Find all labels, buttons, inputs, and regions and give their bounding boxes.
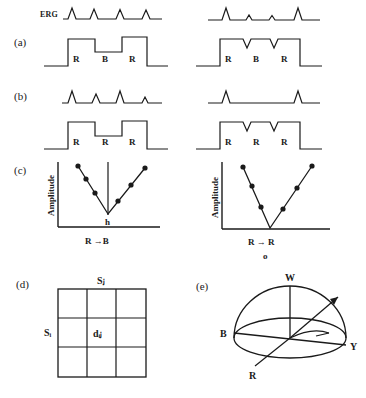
grid-center-label: dᵢⱼ bbox=[93, 328, 102, 339]
axis-label-y: Y bbox=[350, 341, 358, 352]
data-point bbox=[128, 182, 133, 187]
panel-b: (b) R R R R R R bbox=[14, 90, 322, 149]
panel-b-right: R R R bbox=[196, 91, 322, 149]
axis-label-r: R bbox=[249, 370, 257, 381]
data-point bbox=[83, 176, 88, 181]
erg-trace-a-left bbox=[63, 8, 162, 19]
panel-d: (d) Sⱼ Sᵢ dᵢⱼ bbox=[16, 275, 146, 377]
data-point bbox=[280, 206, 285, 211]
grid-top-label: Sⱼ bbox=[97, 275, 105, 286]
panel-e-letter: (e) bbox=[196, 280, 209, 293]
figure-canvas: (a) ERG R B R R B R (b) R bbox=[0, 0, 366, 398]
vector-arrow-head bbox=[330, 297, 338, 305]
stimulus-label-a-left-1: B bbox=[102, 54, 108, 64]
data-point bbox=[240, 164, 245, 169]
data-point bbox=[258, 204, 263, 209]
axis-label-y-c-left: Amplitude bbox=[46, 175, 56, 216]
panel-b-letter: (b) bbox=[14, 90, 27, 103]
erg-trace-b-right bbox=[208, 91, 320, 103]
stimulus-label-b-left-2: R bbox=[129, 137, 136, 147]
data-point bbox=[92, 190, 97, 195]
panel-a-right: R B R bbox=[196, 8, 322, 66]
marker-below-c-right: o bbox=[263, 251, 268, 261]
figure-root: (a) ERG R B R R B R (b) R bbox=[0, 0, 366, 398]
stimulus-label-a-left-0: R bbox=[73, 54, 80, 64]
axis-label-y-c-right: Amplitude bbox=[210, 177, 220, 218]
stimulus-label-a-right-1: B bbox=[253, 54, 259, 64]
axis-r bbox=[255, 338, 290, 366]
erg-trace-b-left bbox=[62, 91, 162, 103]
stimulus-label-b-left-0: R bbox=[73, 137, 80, 147]
axis-label-x-c-right: R → R bbox=[248, 237, 275, 247]
panel-c: (c) Amplitude R →B h Amplitude bbox=[14, 162, 330, 261]
stimulus-label-a-right-0: R bbox=[225, 54, 232, 64]
data-point bbox=[309, 163, 314, 168]
stimulus-label-b-right-2: R bbox=[281, 137, 288, 147]
panel-b-left: R R R bbox=[44, 91, 168, 149]
stimulus-label-b-right-1: R bbox=[253, 137, 260, 147]
stimulus-label-a-right-2: R bbox=[281, 54, 288, 64]
panel-d-letter: (d) bbox=[16, 278, 29, 291]
panel-c-left: Amplitude R →B h bbox=[46, 162, 160, 246]
axis-label-x-c-left: R →B bbox=[85, 236, 109, 246]
grid-left-label: Sᵢ bbox=[44, 327, 52, 338]
data-point bbox=[75, 163, 80, 168]
data-point bbox=[142, 165, 147, 170]
v-curve-c-left bbox=[78, 166, 145, 214]
data-point bbox=[294, 185, 299, 190]
v-curve-c-right bbox=[243, 166, 312, 228]
panel-a-letter: (a) bbox=[14, 36, 27, 49]
panel-c-right: Amplitude R → R o bbox=[210, 162, 330, 261]
azimuth-arc-tail bbox=[316, 333, 329, 336]
vertex-label-c-left: h bbox=[105, 217, 110, 227]
stimulus-label-a-left-2: R bbox=[129, 54, 136, 64]
erg-label-a-left: ERG bbox=[40, 10, 58, 19]
panel-c-letter: (c) bbox=[14, 164, 27, 177]
erg-trace-a-right bbox=[208, 8, 320, 20]
panel-a-left: ERG R B R bbox=[40, 8, 168, 66]
panel-e: (e) W B Y R bbox=[196, 272, 358, 381]
stimulus-label-b-left-1: R bbox=[102, 137, 109, 147]
panel-a: (a) ERG R B R R B R bbox=[14, 8, 322, 66]
axis-label-b: B bbox=[220, 328, 227, 339]
axis-label-w: W bbox=[285, 272, 295, 283]
data-point bbox=[115, 198, 120, 203]
stimulus-label-b-right-0: R bbox=[225, 137, 232, 147]
data-point bbox=[249, 183, 254, 188]
